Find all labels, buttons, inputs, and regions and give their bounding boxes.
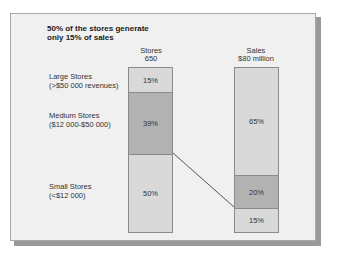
connector-line	[0, 0, 337, 256]
